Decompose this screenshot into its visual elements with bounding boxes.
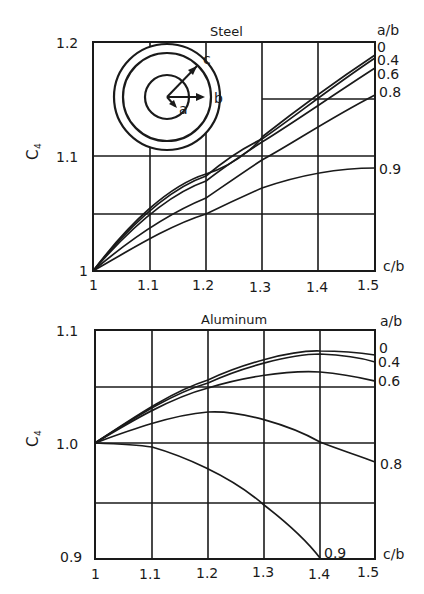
steel-xtick-1.1: 1.1 [137, 277, 159, 293]
steel-xtick-1.5: 1.5 [357, 277, 379, 293]
aluminum-curve-0 [95, 351, 375, 443]
aluminum-label-0.9: 0.9 [324, 545, 346, 561]
aluminum-label-0.6: 0.6 [378, 373, 400, 389]
steel-ylabel: C 4 [24, 143, 43, 160]
aluminum-label-0.4: 0.4 [378, 354, 400, 370]
steel-ytick-1.1: 1.1 [56, 149, 78, 165]
aluminum-xlabel: c/b [383, 546, 404, 562]
aluminum-ylabel: C 4 [24, 430, 43, 447]
inset-label-b: b [214, 90, 223, 106]
aluminum-chart: Aluminum a/b 1.1 1.0 0.9 1 1.1 1.2 1.3 1… [24, 312, 404, 582]
inset-label-c: c [203, 51, 211, 67]
aluminum-ytick-1.1: 1.1 [56, 323, 78, 339]
steel-xtick-1.2: 1.2 [192, 277, 214, 293]
svg-text:4: 4 [33, 143, 43, 149]
steel-xtick-1.4: 1.4 [306, 279, 328, 295]
aluminum-xtick-1.3: 1.3 [252, 564, 274, 580]
aluminum-xtick-1.2: 1.2 [196, 565, 218, 581]
svg-text:4: 4 [33, 430, 43, 436]
aluminum-ytick-1.0: 1.0 [56, 436, 78, 452]
aluminum-xtick-1.5: 1.5 [357, 564, 379, 580]
aluminum-curves [95, 351, 375, 558]
steel-curve-0.9 [93, 168, 375, 271]
steel-title: Steel [210, 24, 243, 39]
steel-xlabel: c/b [383, 258, 404, 274]
figure: Steel a/b c b a [0, 0, 424, 594]
steel-label-0.6: 0.6 [377, 66, 399, 82]
svg-text:C: C [24, 150, 42, 160]
aluminum-title: Aluminum [201, 312, 267, 327]
aluminum-xtick-1.1: 1.1 [139, 566, 161, 582]
aluminum-ytick-0.9: 0.9 [60, 549, 82, 565]
inset-label-a: a [179, 101, 188, 117]
steel-legend-title: a/b [377, 22, 399, 38]
aluminum-legend-title: a/b [380, 313, 402, 329]
steel-xtick-1.3: 1.3 [249, 279, 271, 295]
steel-label-0.9: 0.9 [379, 161, 401, 177]
steel-chart: Steel a/b c b a [24, 22, 404, 295]
steel-ytick-1: 1 [79, 263, 88, 279]
steel-xtick-1: 1 [89, 277, 98, 293]
svg-text:C: C [24, 437, 42, 447]
aluminum-plot-frame [95, 330, 375, 559]
aluminum-grid [95, 330, 375, 559]
aluminum-curve-0.4 [95, 354, 375, 443]
aluminum-xtick-1.4: 1.4 [308, 566, 330, 582]
aluminum-xtick-1: 1 [91, 566, 100, 582]
steel-ytick-1.2: 1.2 [56, 35, 78, 51]
steel-label-0.8: 0.8 [379, 84, 401, 100]
aluminum-label-0.8: 0.8 [380, 456, 402, 472]
aluminum-curve-0.6 [95, 372, 375, 443]
